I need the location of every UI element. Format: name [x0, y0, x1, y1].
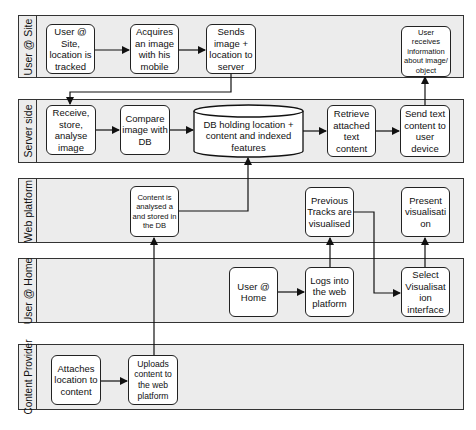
node-acquires-image[interactable]: Acquires an image with his mobile — [130, 24, 179, 74]
lane-label: Content Provider — [19, 345, 37, 409]
lane-label: Server side — [19, 100, 37, 162]
node-present-visualisation[interactable]: Present visualisati on — [401, 187, 450, 237]
node-content-analysed[interactable]: Content is analysed a and stored in the … — [130, 186, 179, 237]
node-retrieve-text[interactable]: Retrieve attached text content — [327, 105, 376, 157]
node-uploads-content[interactable]: Uploads content to the web platform — [128, 355, 178, 405]
lane-label: User @ Home — [19, 259, 37, 322]
node-label: Present visualisati on — [403, 195, 448, 230]
node-database[interactable]: DB holding location + content and indexe… — [200, 118, 297, 154]
node-label: Select Visualisat ion interface — [403, 269, 448, 315]
lane-label-text: Content Provider — [22, 339, 33, 414]
node-label: Retrieve attached text content — [329, 108, 374, 154]
lane-label-text: User @ Site — [22, 18, 34, 75]
node-label: User @ Home — [231, 281, 276, 304]
node-send-text[interactable]: Send text content to user device — [400, 105, 450, 157]
lane-label: Web platform — [19, 179, 37, 242]
lane-label-text: User @ Home — [22, 257, 34, 324]
node-label: Attaches location to content — [53, 363, 99, 398]
node-label: Send text content to user device — [402, 108, 448, 154]
node-label: DB holding location + content and indexe… — [200, 119, 297, 154]
node-label: Receive, store, analyse image — [48, 107, 94, 153]
node-previous-tracks[interactable]: Previous Tracks are visualised — [305, 187, 354, 237]
node-label: Sends image + location to server — [208, 26, 254, 72]
lane-label-text: Server side — [22, 104, 34, 157]
node-logs-into-platform[interactable]: Logs into the web platform — [305, 267, 354, 317]
node-label: Logs into the web platform — [307, 275, 352, 310]
node-user-at-site[interactable]: User @ Site, location is tracked — [46, 24, 95, 74]
node-label: Acquires an image with his mobile — [132, 26, 177, 72]
node-label: Content is analysed a and stored in the … — [132, 193, 177, 231]
node-sends-image[interactable]: Sends image + location to server — [206, 24, 256, 74]
node-attaches-location[interactable]: Attaches location to content — [51, 355, 101, 405]
node-select-visualisation[interactable]: Select Visualisat ion interface — [401, 267, 450, 317]
node-label: User receives information about image/ o… — [403, 28, 449, 76]
node-compare-image[interactable]: Compare image with DB — [120, 105, 170, 155]
lane-web-platform: Web platform — [18, 178, 464, 243]
lane-label-text: Web platform — [22, 179, 34, 241]
node-receive-store-analyse[interactable]: Receive, store, analyse image — [46, 105, 96, 155]
node-label: User @ Site, location is tracked — [48, 26, 93, 72]
node-label: Uploads content to the web platform — [130, 359, 176, 401]
node-user-receives-info[interactable]: User receives information about image/ o… — [401, 26, 451, 77]
node-label: Previous Tracks are visualised — [307, 195, 352, 230]
lane-label: User @ Site — [19, 16, 37, 77]
node-user-at-home[interactable]: User @ Home — [229, 267, 278, 317]
node-label: Compare image with DB — [122, 113, 168, 148]
